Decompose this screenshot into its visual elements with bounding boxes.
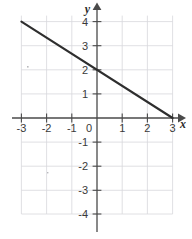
y-tick-label-2: 2 xyxy=(82,64,88,76)
origin-label: 0 xyxy=(86,122,92,134)
x-tick-label-1: 1 xyxy=(119,122,125,134)
x-tick-label--1: -1 xyxy=(67,122,77,134)
paper-speck xyxy=(27,66,29,68)
y-axis xyxy=(93,3,102,233)
x-tick-label--2: -2 xyxy=(42,122,52,134)
x-tick-label--3: -3 xyxy=(17,122,27,134)
y-tick-label-1: 1 xyxy=(82,88,88,100)
y-tick-label-4: 4 xyxy=(82,16,88,28)
paper-speck xyxy=(47,172,48,173)
x-tick-label-3: 3 xyxy=(170,122,176,134)
graph-canvas: -3 -2 -1 1 2 3 0 4 3 2 1 -1 -2 -3 -4 y x xyxy=(0,0,192,239)
y-tick-label--2: -2 xyxy=(78,160,88,172)
y-axis-up-arrow-icon xyxy=(93,3,102,11)
y-tick-label--4: -4 xyxy=(78,208,88,220)
x-axis-label: x xyxy=(179,117,186,131)
y-tick-label-3: 3 xyxy=(82,40,88,52)
x-tick-label-2: 2 xyxy=(144,122,150,134)
x-axis xyxy=(12,114,186,123)
y-axis-label: y xyxy=(83,2,91,16)
x-tick-labels: -3 -2 -1 1 2 3 xyxy=(17,122,176,134)
coordinate-plane-figure: -3 -2 -1 1 2 3 0 4 3 2 1 -1 -2 -3 -4 y x xyxy=(0,0,192,239)
y-tick-label--1: -1 xyxy=(78,136,88,148)
y-tick-label--3: -3 xyxy=(78,184,88,196)
